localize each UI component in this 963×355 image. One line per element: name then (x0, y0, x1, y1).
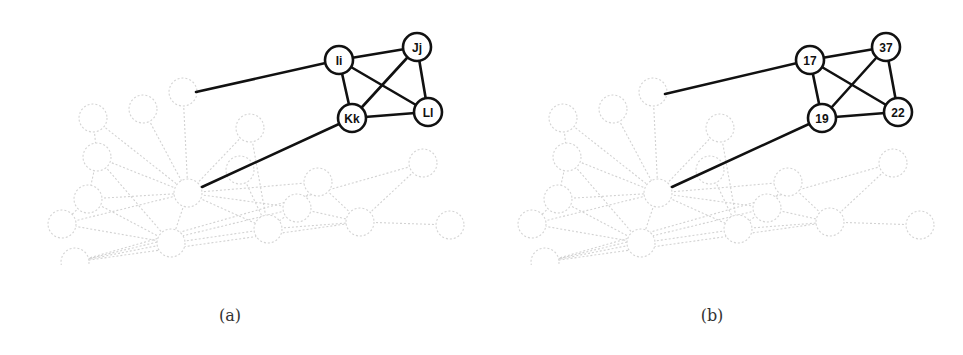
caption-b: (b) (701, 306, 724, 325)
faded-node (816, 208, 844, 236)
faded-node (724, 215, 752, 243)
faded-node (627, 229, 655, 257)
faded-edge (545, 222, 830, 262)
faded-edge (558, 193, 658, 199)
faded-node (599, 95, 627, 123)
faded-edge (558, 199, 641, 243)
faded-node (639, 78, 667, 106)
faded-edge (613, 109, 658, 193)
faded-node (544, 185, 572, 213)
clique-node-19: 19 (808, 104, 836, 132)
faded-node (879, 149, 907, 177)
faded-edge (641, 229, 738, 243)
faded-node (549, 104, 577, 132)
faded-edge (653, 92, 658, 193)
clique-node-22: 22 (884, 98, 912, 126)
faded-edge (720, 128, 738, 229)
faded-edge (532, 224, 641, 243)
bridge-edge (665, 60, 810, 94)
node-label: 22 (891, 106, 905, 120)
faded-node (774, 168, 802, 196)
clique-node-37: 37 (872, 33, 900, 61)
clique-node-17: 17 (796, 46, 824, 74)
faded-node (553, 143, 581, 171)
node-label: 17 (803, 54, 817, 68)
node-label: 37 (879, 41, 893, 55)
faded-node (706, 114, 734, 142)
faded-node (753, 194, 781, 222)
faded-node (644, 179, 672, 207)
faded-node (531, 248, 559, 276)
panel-b: 17371922 (b) (0, 0, 963, 355)
faded-node (906, 211, 934, 239)
graph-b: 17371922 (0, 0, 963, 300)
faded-edge (567, 157, 658, 193)
background-graph (518, 78, 934, 276)
node-label: 19 (815, 112, 829, 126)
faded-edge (545, 243, 641, 262)
faded-node (518, 210, 546, 238)
